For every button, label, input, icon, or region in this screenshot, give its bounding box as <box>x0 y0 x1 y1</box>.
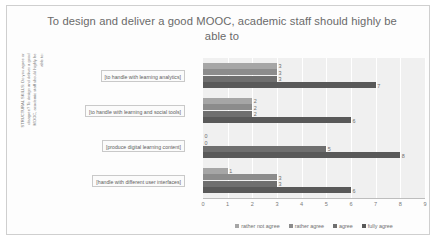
legend-swatch-icon <box>235 224 239 228</box>
bar-value-label: 3 <box>279 181 282 187</box>
bar <box>203 82 376 88</box>
legend-swatch-icon <box>333 224 337 228</box>
bar-value-label: 3 <box>279 63 282 69</box>
bar <box>203 181 277 187</box>
legend-item[interactable]: rather agree <box>289 223 324 229</box>
category-label: [handle with different user interfaces] <box>92 175 185 187</box>
bar-value-label: 3 <box>279 76 282 82</box>
bar <box>203 63 277 69</box>
x-tick-label: 8 <box>395 201 405 207</box>
x-tick-label: 5 <box>321 201 331 207</box>
gridline <box>376 58 377 198</box>
bar-value-label: 1 <box>229 168 232 174</box>
category-label: [to handle with learning analytics] <box>101 70 185 82</box>
bar-value-label: 0 <box>205 133 208 139</box>
gridline <box>425 58 426 198</box>
bar <box>203 76 277 82</box>
category-label: [produce digital learning content] <box>102 140 185 152</box>
legend-label: agree <box>339 223 353 229</box>
x-tick-label: 3 <box>272 201 282 207</box>
legend-label: rather agree <box>295 223 324 229</box>
x-tick-label: 6 <box>346 201 356 207</box>
bar-value-label: 2 <box>254 111 257 117</box>
bar-value-label: 3 <box>279 175 282 181</box>
x-tick-label: 4 <box>297 201 307 207</box>
bar <box>203 111 252 117</box>
category-label: [to handle with learning and social tool… <box>85 105 185 117</box>
gridline <box>302 58 303 198</box>
legend-label: rather not agree <box>241 223 279 229</box>
bar-value-label: 0 <box>205 140 208 146</box>
gridline <box>400 58 401 198</box>
bar <box>203 69 277 75</box>
legend-label: fully agree <box>368 223 393 229</box>
x-tick-label: 7 <box>371 201 381 207</box>
bar <box>203 168 228 174</box>
gridline <box>351 58 352 198</box>
legend-swatch-icon <box>362 224 366 228</box>
bar <box>203 117 351 123</box>
bar <box>203 98 252 104</box>
bar <box>203 174 277 180</box>
bar <box>203 146 326 152</box>
x-axis-line <box>203 198 425 199</box>
bar-value-label: 6 <box>353 118 356 124</box>
legend-item[interactable]: rather not agree <box>235 223 279 229</box>
chart-legend: rather not agreerather agreeagreefully a… <box>203 221 425 231</box>
y-axis-title-container: STRUCTURAL SKILLS: Do you agree or disag… <box>15 58 49 208</box>
x-tick-label: 1 <box>223 201 233 207</box>
bar-value-label: 2 <box>254 105 257 111</box>
bar-value-label: 2 <box>254 98 257 104</box>
gridline <box>326 58 327 198</box>
y-axis-title: STRUCTURAL SKILLS: Do you agree or disag… <box>20 53 45 203</box>
bar <box>203 104 252 110</box>
x-tick-label: 2 <box>247 201 257 207</box>
x-tick-label: 0 <box>198 201 208 207</box>
bar-value-label: 3 <box>279 70 282 76</box>
x-tick-label: 9 <box>420 201 430 207</box>
bar-value-label: 6 <box>353 188 356 194</box>
bar <box>203 187 351 193</box>
chart-figure: To design and deliver a good MOOC, acade… <box>6 5 430 235</box>
bar <box>203 152 400 158</box>
bar-value-label: 8 <box>402 153 405 159</box>
legend-swatch-icon <box>289 224 293 228</box>
bar-value-label: 7 <box>377 83 380 89</box>
legend-item[interactable]: agree <box>333 223 353 229</box>
legend-item[interactable]: fully agree <box>362 223 393 229</box>
chart-title: To design and deliver a good MOOC, acade… <box>47 14 397 44</box>
bar-value-label: 5 <box>328 146 331 152</box>
